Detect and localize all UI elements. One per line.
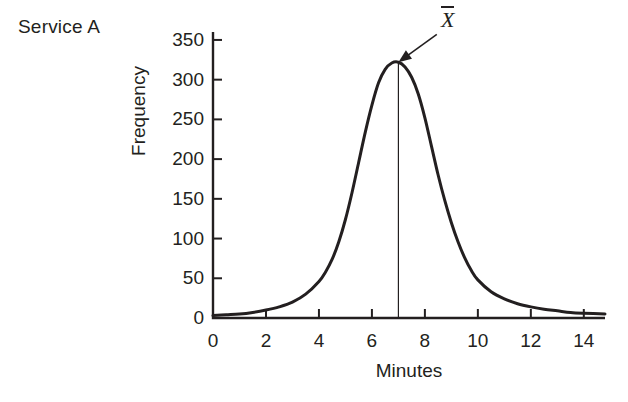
x-axis-tick-label: 2	[261, 330, 272, 352]
x-axis-tick-label: 12	[520, 330, 541, 352]
x-axis-tick-label: 14	[573, 330, 594, 352]
y-axis-tick-label: 150	[140, 188, 204, 210]
y-axis-tick-label: 0	[140, 307, 204, 329]
x-axis-tick-label: 4	[314, 330, 325, 352]
distribution-curve	[213, 62, 605, 316]
y-axis-tick-label: 200	[140, 148, 204, 170]
y-axis-tick-label: 50	[140, 267, 204, 289]
mean-arrow-icon	[398, 34, 436, 62]
y-axis-tick-label: 300	[140, 69, 204, 91]
y-axis-tick-label: 100	[140, 228, 204, 250]
x-axis-tick-label: 0	[208, 330, 219, 352]
x-axis-tick-label: 6	[367, 330, 378, 352]
chart-figure: Service A Frequency Minutes X 0501001502…	[0, 0, 628, 402]
x-axis-tick-label: 10	[467, 330, 488, 352]
y-axis-ticks	[213, 40, 222, 318]
x-axis-tick-label: 8	[420, 330, 431, 352]
y-axis-tick-label: 250	[140, 108, 204, 130]
y-axis-tick-label: 350	[140, 29, 204, 51]
